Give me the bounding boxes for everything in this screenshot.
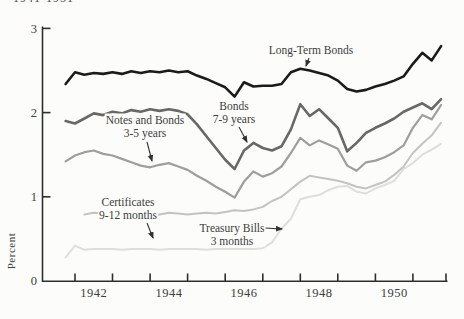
yield-chart-canvas: 012319421944194619481950 (0, 0, 464, 319)
annotation-arrow-notes-and-bonds-3-5-years (147, 142, 152, 161)
x-tick-label: 1948 (306, 286, 333, 300)
series-long-term-bonds (66, 46, 442, 97)
annotation-long-term-bonds: Long-Term Bonds (268, 44, 354, 57)
annotation-certificates-9-12-months: Certificates9-12 months (98, 196, 158, 221)
x-tick-label: 1942 (80, 286, 107, 300)
y-tick-label: 1 (31, 190, 37, 204)
x-tick-label: 1950 (381, 286, 408, 300)
yield-chart-page: 1941-1951 012319421944194619481950 Perce… (0, 0, 464, 319)
annotation-arrow-treasury-bills-3-months (265, 228, 282, 229)
annotation-bonds-7-9-years: Bonds7-9 years (212, 100, 256, 125)
annotation-arrow-bonds-7-9-years (239, 127, 247, 142)
x-tick-label: 1944 (155, 286, 182, 300)
annotation-arrow-certificates-9-12-months (147, 223, 153, 238)
annotation-notes-and-bonds-3-5-years: Notes and Bonds3-5 years (105, 114, 186, 139)
y-tick-label: 2 (31, 106, 37, 120)
annotation-treasury-bills-3-months: Treasury Bills3 months (198, 222, 265, 247)
annotation-arrow-long-term-bonds (306, 58, 309, 66)
x-tick-label: 1946 (231, 286, 258, 300)
y-tick-label: 0 (31, 274, 37, 288)
y-tick-label: 3 (31, 22, 37, 36)
y-axis-label: Percent (5, 228, 17, 274)
